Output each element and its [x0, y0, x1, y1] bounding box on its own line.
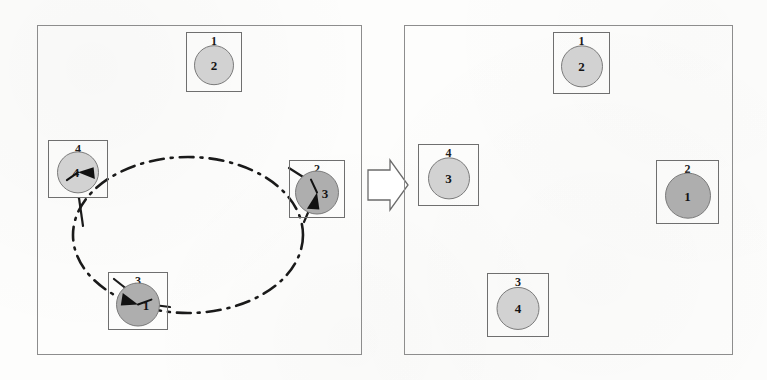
right-node-4[interactable]: 43 [418, 144, 479, 206]
right-node-3[interactable]: 34 [487, 273, 549, 337]
node-circle: 3 [428, 157, 470, 199]
left-node-2[interactable]: 23 [289, 160, 345, 218]
rotation-pointer-icon [58, 152, 98, 192]
figure-root: 1244233112432134 [0, 0, 767, 380]
node-circle: 1 [665, 173, 711, 219]
left-node-1[interactable]: 12 [186, 32, 242, 92]
right-node-2[interactable]: 21 [656, 160, 719, 224]
pointer-hand [311, 180, 317, 193]
pointer-arrowhead [303, 193, 324, 215]
node-circle: 3 [295, 171, 339, 215]
node-value-label: 1 [684, 189, 691, 202]
node-value-label: 2 [578, 60, 585, 73]
node-circle: 4 [57, 151, 99, 193]
node-circle: 2 [561, 45, 603, 87]
node-value-label: 4 [515, 302, 522, 315]
pointer-arrowhead [78, 163, 100, 184]
left-node-4[interactable]: 44 [48, 140, 108, 198]
rotation-pointer-icon [117, 284, 159, 326]
rotation-pointer-icon [296, 172, 338, 214]
node-value-label: 3 [445, 172, 452, 185]
node-circle: 1 [116, 283, 160, 327]
transition-arrow-icon [368, 160, 408, 210]
pointer-hand [67, 172, 78, 180]
pointer-hand [138, 300, 151, 305]
node-value-label: 2 [211, 59, 218, 72]
node-circle: 2 [194, 45, 234, 85]
node-circle: 4 [497, 287, 540, 330]
left-node-3[interactable]: 31 [108, 272, 168, 330]
right-node-1[interactable]: 12 [553, 32, 610, 94]
pointer-arrowhead [117, 290, 138, 311]
